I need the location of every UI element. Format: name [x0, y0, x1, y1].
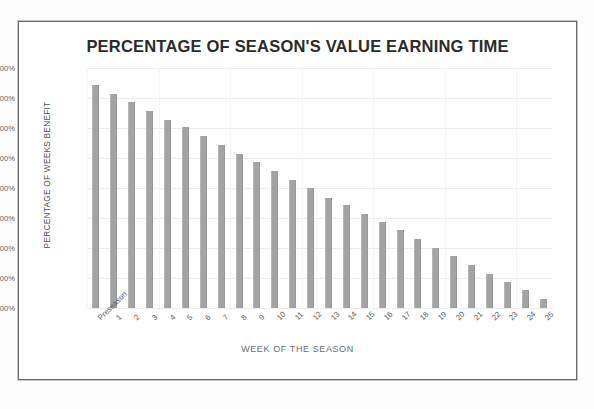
bar[interactable] [164, 120, 171, 308]
bar-slot [463, 68, 481, 308]
bar[interactable] [289, 180, 296, 308]
bar[interactable] [146, 111, 153, 308]
y-tick-label: 3.00% [0, 214, 15, 223]
y-axis-title: PERCENTAGE OF WEEKS BENEFIT [42, 85, 52, 265]
x-axis-title: WEEK OF THE SEASON [19, 344, 576, 354]
bar[interactable] [343, 205, 350, 308]
plot-area [87, 68, 552, 308]
bar-slot [427, 68, 445, 308]
bar[interactable] [110, 94, 117, 309]
bar-slot [445, 68, 463, 308]
bar-slot [87, 68, 105, 308]
bar-slot [516, 68, 534, 308]
bar-slot [373, 68, 391, 308]
gridline-horizontal [87, 308, 552, 309]
bar[interactable] [450, 256, 457, 309]
bar[interactable] [307, 188, 314, 308]
chart-title: PERCENTAGE OF SEASON'S VALUE EARNING TIM… [19, 37, 576, 56]
bar-slot [212, 68, 230, 308]
y-tick-label: 8.00% [0, 64, 15, 73]
bar-slot [159, 68, 177, 308]
bar-slot [391, 68, 409, 308]
y-tick-label: 2.00% [0, 244, 15, 253]
bar-slot [320, 68, 338, 308]
bar-slot [266, 68, 284, 308]
bar[interactable] [522, 290, 529, 308]
bar[interactable] [200, 136, 207, 308]
bar[interactable] [432, 248, 439, 308]
x-tick-label: 25 [543, 310, 556, 323]
bar-slot [534, 68, 552, 308]
bar-slot [248, 68, 266, 308]
bar[interactable] [504, 282, 511, 308]
bar-slot [481, 68, 499, 308]
bar[interactable] [128, 102, 135, 308]
bar[interactable] [236, 154, 243, 309]
bar-slot [355, 68, 373, 308]
bar-slot [230, 68, 248, 308]
bar[interactable] [361, 214, 368, 308]
bar-slot [105, 68, 123, 308]
y-tick-label: 7.00% [0, 94, 15, 103]
bar[interactable] [397, 230, 404, 308]
bar-slot [194, 68, 212, 308]
bar-slot [284, 68, 302, 308]
bar-slot [498, 68, 516, 308]
bar[interactable] [325, 198, 332, 308]
bar[interactable] [414, 239, 421, 308]
bar-slot [176, 68, 194, 308]
y-tick-label: 4.00% [0, 184, 15, 193]
chart-frame: PERCENTAGE OF SEASON'S VALUE EARNING TIM… [18, 21, 577, 380]
bar-slot [409, 68, 427, 308]
bar-slot [302, 68, 320, 308]
bar[interactable] [92, 85, 99, 308]
y-tick-label: 1.00% [0, 274, 15, 283]
y-axis-tick-labels: 8.00%7.00%6.00%5.00%4.00%3.00%2.00%1.00%… [0, 68, 15, 308]
scanned-page: PERCENTAGE OF SEASON'S VALUE EARNING TIM… [0, 0, 594, 409]
bar-slot [123, 68, 141, 308]
bar[interactable] [271, 171, 278, 308]
bar[interactable] [218, 145, 225, 308]
bar[interactable] [379, 222, 386, 308]
bar-series [87, 68, 552, 308]
bar-slot [141, 68, 159, 308]
bar[interactable] [468, 265, 475, 309]
bar[interactable] [486, 274, 493, 309]
bar[interactable] [253, 162, 260, 308]
y-tick-label: 6.00% [0, 124, 15, 133]
bar[interactable] [540, 299, 547, 308]
y-tick-label: 5.00% [0, 154, 15, 163]
bar-slot [337, 68, 355, 308]
y-tick-label: 0.00% [0, 304, 15, 313]
bar[interactable] [182, 127, 189, 308]
